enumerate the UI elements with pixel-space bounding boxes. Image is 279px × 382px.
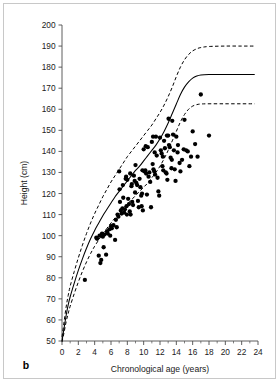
data-point xyxy=(138,185,142,189)
y-axis-tick-label: 50 xyxy=(46,336,56,346)
data-point xyxy=(156,189,160,193)
data-point xyxy=(131,203,135,207)
data-point xyxy=(168,145,172,149)
data-point xyxy=(97,254,101,258)
data-point xyxy=(140,168,144,172)
data-point xyxy=(175,150,179,154)
data-point xyxy=(172,148,176,152)
y-axis-tick-label: 60 xyxy=(46,315,56,325)
data-point xyxy=(176,143,180,147)
data-point xyxy=(165,133,169,137)
data-point xyxy=(161,155,165,159)
data-point xyxy=(166,117,170,121)
axes-group xyxy=(59,25,259,345)
y-axis-tick-label: 90 xyxy=(46,252,56,262)
data-point xyxy=(180,158,184,162)
panel-label: b xyxy=(23,359,29,371)
data-point xyxy=(186,149,190,153)
data-point xyxy=(117,169,121,173)
data-point xyxy=(174,135,178,139)
data-point xyxy=(149,205,153,209)
y-axis-tick-label: 70 xyxy=(46,294,56,304)
data-point xyxy=(116,215,120,219)
y-axis-tick-label: 130 xyxy=(42,167,56,177)
data-point xyxy=(139,204,143,208)
data-point xyxy=(170,119,174,123)
data-point xyxy=(189,155,193,159)
x-axis-title: Chronological age (years) xyxy=(111,364,210,374)
x-axis-tick-label: 2 xyxy=(76,347,81,357)
data-point xyxy=(113,238,117,242)
data-point xyxy=(146,175,150,179)
scatter-points-group xyxy=(83,92,211,282)
data-point xyxy=(170,158,174,162)
y-axis-tick-label: 170 xyxy=(42,83,56,93)
data-point xyxy=(115,225,119,229)
data-point xyxy=(104,252,108,256)
y-axis-tick-label: 150 xyxy=(42,125,56,135)
data-point xyxy=(155,176,159,180)
data-point xyxy=(147,170,151,174)
data-point xyxy=(102,245,106,249)
data-point xyxy=(145,192,149,196)
x-axis-tick-label: 6 xyxy=(109,347,114,357)
data-point xyxy=(151,135,155,139)
data-point xyxy=(141,208,145,212)
data-point xyxy=(195,155,199,159)
data-point xyxy=(137,177,141,181)
data-point xyxy=(133,190,137,194)
data-point xyxy=(118,200,122,204)
y-axis-tick-label: 80 xyxy=(46,273,56,283)
data-point xyxy=(150,140,154,144)
data-point xyxy=(126,197,130,201)
data-point xyxy=(153,150,157,154)
y-axis-tick-label: 160 xyxy=(42,104,56,114)
data-point xyxy=(117,187,121,191)
data-point xyxy=(193,142,197,146)
data-point xyxy=(187,164,191,168)
x-axis-tick-label: 4 xyxy=(92,347,97,357)
y-axis-tick-label: 180 xyxy=(42,62,56,72)
data-point xyxy=(148,180,152,184)
y-axis-tick-label: 200 xyxy=(42,20,56,30)
x-axis-tick-label: 14 xyxy=(172,347,182,357)
data-point xyxy=(144,144,148,148)
data-point xyxy=(163,146,167,150)
data-point xyxy=(121,183,125,187)
data-point xyxy=(151,162,155,166)
data-point xyxy=(178,169,182,173)
data-point xyxy=(136,199,140,203)
data-point xyxy=(191,129,195,133)
data-point xyxy=(133,163,137,167)
y-axis-title: Height (cm) xyxy=(19,161,29,206)
x-axis-tick-label: 16 xyxy=(188,347,198,357)
figure-panel-b: 5060708090100110120130140150160170180190… xyxy=(0,0,279,382)
data-point xyxy=(182,118,186,122)
data-point xyxy=(173,167,177,171)
data-point xyxy=(162,139,166,143)
y-axis-tick-label: 190 xyxy=(42,41,56,51)
x-axis-tick-label: 24 xyxy=(253,347,263,357)
y-axis-tick-label: 140 xyxy=(42,146,56,156)
x-axis-tick-label: 10 xyxy=(139,347,149,357)
x-axis-tick-label: 18 xyxy=(204,347,214,357)
y-axis-tick-label: 110 xyxy=(42,210,56,220)
data-point xyxy=(83,278,87,282)
x-axis-tick-label: 12 xyxy=(155,347,165,357)
data-point xyxy=(160,164,164,168)
data-point xyxy=(128,171,132,175)
x-axis-tick-label: 20 xyxy=(221,347,231,357)
data-point xyxy=(164,171,168,175)
x-axis-tick-label: 0 xyxy=(60,347,65,357)
data-point xyxy=(99,258,103,262)
data-point xyxy=(173,179,177,183)
data-point xyxy=(207,133,211,137)
x-axis-tick-label: 8 xyxy=(125,347,130,357)
data-point xyxy=(125,178,129,182)
y-axis-tick-label: 100 xyxy=(42,231,56,241)
data-point xyxy=(132,173,136,177)
data-point xyxy=(158,136,162,140)
data-point xyxy=(157,193,161,197)
data-point xyxy=(108,234,112,238)
y-axis-tick-label: 120 xyxy=(42,189,56,199)
